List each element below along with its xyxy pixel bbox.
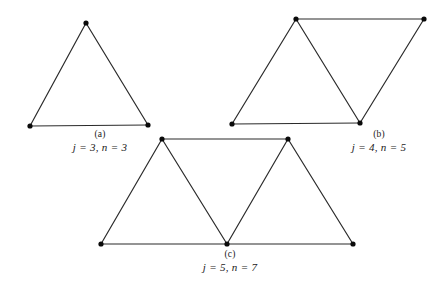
edge-c-1	[101, 139, 162, 244]
caption-formula-c: j = 5, n = 7	[183, 261, 277, 274]
vertex-c-bottom-left	[98, 241, 103, 246]
caption-letter-b: (b)	[333, 129, 425, 140]
edge-c-2	[162, 139, 227, 244]
vertex-a-apex	[83, 20, 88, 25]
edge-b-3	[232, 123, 360, 124]
vertex-c-top-left	[159, 136, 164, 141]
vertex-b-top-left	[293, 16, 298, 21]
polygon-panel-a	[27, 20, 150, 128]
polygon-panel-b	[229, 16, 426, 126]
vertex-b-top-right	[421, 16, 426, 21]
vertex-a-bottom-left	[27, 123, 32, 128]
caption-formula-b: j = 4, n = 5	[333, 141, 425, 154]
vertex-b-bottom-left	[229, 121, 234, 126]
caption-letter-a: (a)	[56, 129, 144, 140]
vertex-c-top-right	[285, 136, 290, 141]
edge-b-2	[296, 19, 360, 123]
vertex-c-bottom-mid	[224, 241, 229, 246]
edge-c-4	[288, 139, 353, 244]
caption-letter-c: (c)	[183, 249, 277, 260]
edge-c-3	[227, 139, 288, 244]
caption-panel-c: (c) j = 5, n = 7	[183, 249, 277, 274]
edge-a-1	[30, 125, 148, 126]
vertex-b-bottom-mid	[357, 120, 362, 125]
caption-panel-a: (a) j = 3, n = 3	[56, 129, 144, 154]
caption-panel-b: (b) j = 4, n = 5	[333, 129, 425, 154]
vertex-a-bottom-right	[145, 122, 150, 127]
edge-b-1	[232, 19, 296, 124]
vertex-c-bottom-right	[350, 241, 355, 246]
edge-b-4	[360, 19, 424, 123]
edge-a-2	[86, 23, 148, 125]
edge-a-0	[30, 23, 86, 126]
caption-formula-a: j = 3, n = 3	[56, 141, 144, 154]
